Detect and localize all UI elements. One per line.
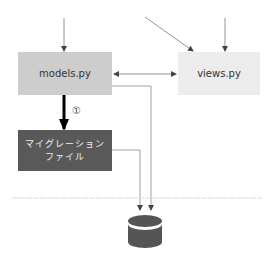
views-py-label: views.py bbox=[197, 68, 241, 79]
arrow-models-to-database bbox=[112, 86, 151, 210]
arrow-diagonal-to-views bbox=[145, 17, 193, 51]
views-py-node: views.py bbox=[178, 52, 260, 95]
models-py-label: models.py bbox=[39, 68, 91, 79]
database-icon bbox=[128, 215, 162, 248]
architecture-diagram: models.py views.py マイグレーション ファイル ① bbox=[0, 0, 274, 256]
migration-file-label-line1: マイグレーション bbox=[25, 138, 105, 151]
arrow-migration-to-database bbox=[112, 150, 140, 210]
migration-file-label-line2: ファイル bbox=[45, 151, 85, 164]
connector-lines bbox=[0, 0, 274, 256]
models-py-node: models.py bbox=[18, 52, 112, 95]
step-1-label: ① bbox=[72, 105, 81, 116]
migration-file-node: マイグレーション ファイル bbox=[18, 130, 112, 171]
